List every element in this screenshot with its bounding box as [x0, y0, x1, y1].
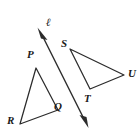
line-ell-segment: [43, 37, 84, 119]
geometry-figure: ℓ P Q R S U T: [0, 0, 140, 138]
line-ell-arrowhead-top: [38, 28, 48, 41]
vertex-label-q: Q: [54, 101, 62, 112]
triangle-pqr-outline: [20, 68, 58, 124]
vertex-label-r: R: [7, 115, 14, 126]
line-label-ell: ℓ: [46, 17, 51, 28]
vertex-label-p: P: [27, 49, 34, 60]
vertex-label-s: S: [61, 38, 67, 49]
geometry-canvas: [0, 0, 140, 138]
line-ell-arrowhead-bottom: [80, 115, 89, 128]
vertex-label-u: U: [128, 68, 136, 79]
triangle-stu-outline: [70, 49, 124, 89]
vertex-label-t: T: [84, 93, 91, 104]
triangle-stu: [70, 49, 124, 89]
triangle-pqr: [20, 68, 58, 124]
